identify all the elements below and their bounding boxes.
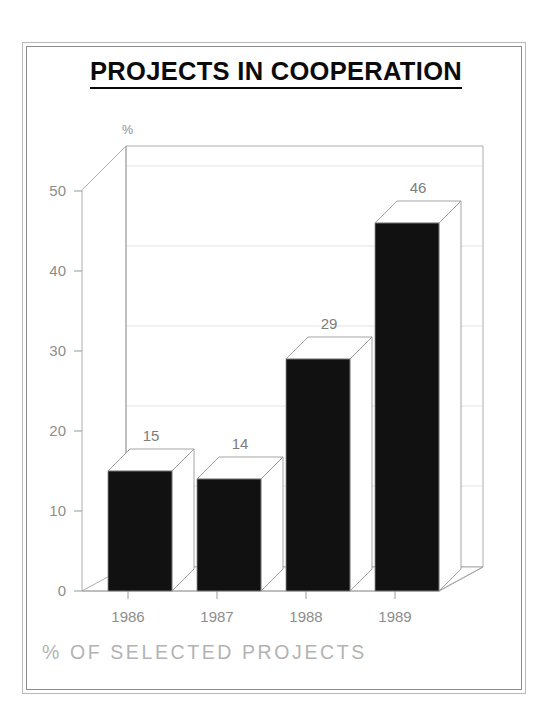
footer-caption: % OF SELECTED PROJECTS [42, 641, 367, 664]
chart-title: PROJECTS IN COOPERATION [0, 57, 552, 86]
page-frame-inner-rule [26, 46, 522, 690]
chart-title-text: PROJECTS IN COOPERATION [90, 57, 462, 89]
page-frame [22, 42, 526, 694]
